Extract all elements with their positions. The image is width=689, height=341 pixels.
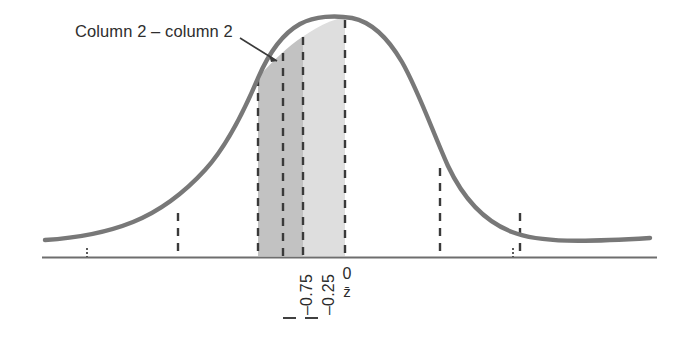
shaded-area-dark [258,37,303,257]
tick-label-minus-075: –0.75 [298,274,316,315]
normal-curve-figure: Column 2 – column 2 –0.75 –0.25 0 z̄ [0,0,689,341]
tick-label-minus-025: –0.25 [320,274,338,315]
annotation-label: Column 2 – column 2 [75,22,233,40]
annotation-leader-arrowhead [269,55,277,62]
z-bar-symbol: z̄ [337,284,357,300]
tick-label-zero: 0 [343,265,352,282]
normal-distribution-curve [45,16,650,240]
shaded-area-light [303,18,345,257]
tick-label-zero-group: 0 z̄ [337,266,357,300]
